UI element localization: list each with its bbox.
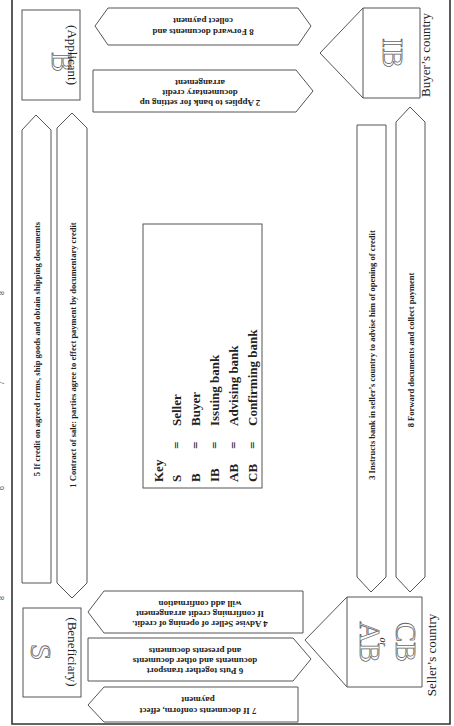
svg-text:arrangement: arrangement: [175, 78, 225, 88]
svg-text:documents and other documents: documents and other documents: [132, 656, 257, 666]
buyer-role: (Applicant): [65, 25, 80, 85]
confirming-bank-letter: CB: [390, 622, 423, 662]
arrow-step-8-seller: 8 Forward documents and collect payment: [396, 107, 425, 592]
arrow-step-8-buyer: 8 Forward documents and collect payment: [95, 8, 311, 45]
svg-text:CB: CB: [245, 464, 260, 482]
svg-text:payment: payment: [181, 695, 215, 705]
svg-text:=: =: [226, 442, 241, 449]
key-box: Key S = Seller B = Buyer IB = Issuing ba…: [143, 224, 262, 488]
svg-text:=: =: [188, 442, 203, 449]
svg-text:7: 7: [0, 381, 5, 385]
svg-text:Confirming bank: Confirming bank: [245, 329, 260, 426]
svg-text:If confirming credit arrangeme: If confirming credit arrangement: [136, 609, 264, 619]
svg-text:Advising bank: Advising bank: [226, 345, 241, 426]
svg-text:8 Forward documents and collec: 8 Forward documents and collect payment: [406, 273, 416, 428]
arrow-step-3: 3 Instructs bank in seller’s country to …: [357, 125, 386, 592]
arrow-step-1: 1 Contract of sale: parties agree to eff…: [57, 113, 87, 598]
svg-text:Issuing bank: Issuing bank: [207, 354, 222, 426]
seller-box: S (Beneficiary): [23, 608, 81, 697]
seller-role: (Beneficiary): [65, 617, 80, 686]
or-label: or: [378, 638, 389, 647]
svg-text:6: 6: [0, 486, 5, 490]
svg-text:2 Applies to bank for setting: 2 Applies to bank for setting up: [140, 98, 260, 108]
svg-text:5 If credit on agreed terms, s: 5 If credit on agreed terms, ship goods …: [32, 221, 42, 476]
key-title: Key: [151, 459, 166, 482]
sellers-country-label: Seller’s country: [424, 613, 439, 696]
svg-text:=: =: [169, 442, 184, 449]
svg-text:and presents documents: and presents documents: [148, 646, 241, 656]
svg-text:Buyer: Buyer: [188, 392, 203, 426]
svg-text:=: =: [245, 442, 260, 449]
buyers-country-label: Buyer’s country: [418, 13, 433, 97]
svg-text:documentary credit: documentary credit: [162, 88, 238, 98]
svg-text:7 If documents conform, effect: 7 If documents conform, effect: [139, 706, 256, 716]
arrow-step-7: 7 If documents conform, effect payment: [88, 687, 298, 722]
svg-text:Seller: Seller: [169, 394, 184, 426]
svg-text:AB: AB: [226, 464, 241, 482]
advising-bank-box: AB or CB: [305, 597, 423, 687]
svg-text:S: S: [169, 475, 184, 482]
svg-text:8 Forward documents and: 8 Forward documents and: [152, 27, 253, 37]
buyer-box: B (Applicant): [22, 10, 80, 100]
svg-text:8: 8: [0, 291, 5, 295]
svg-text:=: =: [207, 442, 222, 449]
arrow-step-5: 5 If credit on agreed terms, ship goods …: [22, 115, 51, 583]
cropped-caption: 8 7 6 8: [0, 291, 5, 600]
issuing-bank-letter: IB: [377, 38, 410, 68]
svg-text:3 Instructs bank in seller’s c: 3 Instructs bank in seller’s country to …: [367, 230, 377, 480]
svg-text:collect payment: collect payment: [173, 16, 233, 26]
documentary-credit-diagram: 8 7 6 8 B (Applicant) S (Beneficiary) IB…: [0, 0, 454, 726]
arrow-step-2: 2 Applies to bank for setting up documen…: [93, 70, 313, 112]
svg-text:B: B: [188, 473, 203, 482]
seller-letter: S: [25, 644, 58, 661]
svg-text:4 Advise Seller of opening of: 4 Advise Seller of opening of credit.: [132, 619, 267, 629]
arrow-step-6: 6 Puts together transport documents and …: [88, 638, 311, 681]
arrow-step-4: 4 Advise Seller of opening of credit. If…: [88, 591, 303, 633]
issuing-bank-box: IB: [320, 8, 420, 98]
svg-text:1 Contract of sale: parties ag: 1 Contract of sale: parties agree to eff…: [68, 222, 78, 487]
svg-text:8: 8: [0, 596, 5, 600]
svg-text:will add confirmation: will add confirmation: [158, 599, 241, 609]
svg-text:6 Puts together transport: 6 Puts together transport: [147, 666, 244, 676]
svg-text:IB: IB: [207, 468, 222, 482]
